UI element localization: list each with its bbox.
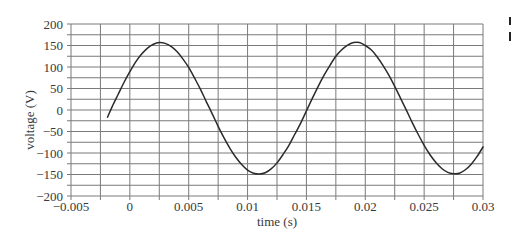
y-axis-tick-labels: 200150100500−50−100−150−200	[36, 17, 63, 204]
x-tick-label: 0.005	[174, 199, 203, 214]
x-tick-label: −0.005	[53, 199, 90, 214]
x-axis-label: time (s)	[257, 214, 297, 229]
y-tick-label: 150	[44, 38, 64, 53]
y-tick-label: −150	[36, 167, 63, 182]
x-tick-label: 0.025	[410, 199, 439, 214]
voltage-vs-time-chart: 200150100500−50−100−150−200 −0.00500.005…	[0, 0, 511, 238]
y-tick-label: −100	[36, 146, 63, 161]
grid-lines	[71, 24, 483, 196]
x-tick-label: 0	[127, 199, 134, 214]
y-tick-label: 200	[44, 17, 64, 32]
y-tick-label: 0	[57, 103, 64, 118]
x-axis-tick-labels: −0.00500.0050.010.0150.020.0250.03	[53, 199, 495, 214]
y-axis-label: voltage (V)	[22, 90, 37, 150]
y-tick-label: 100	[44, 60, 64, 75]
x-tick-label: 0.03	[472, 199, 495, 214]
x-tick-label: 0.015	[292, 199, 321, 214]
chart-container: 200150100500−50−100−150−200 −0.00500.005…	[0, 0, 511, 238]
y-tick-label: 50	[50, 81, 63, 96]
x-tick-label: 0.01	[236, 199, 259, 214]
y-tick-label: −50	[43, 124, 63, 139]
voltage-curve	[107, 42, 483, 174]
x-tick-label: 0.02	[354, 199, 377, 214]
